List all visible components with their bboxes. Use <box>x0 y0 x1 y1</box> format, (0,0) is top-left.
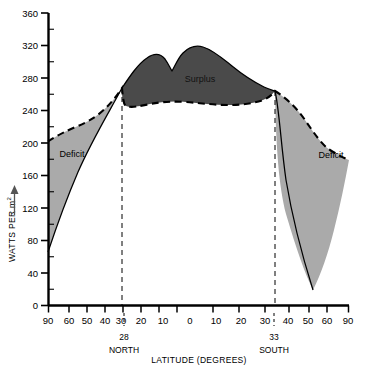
deficit-label-north: Deficit <box>59 149 85 159</box>
marker-value-north: 28 <box>119 332 129 342</box>
x-axis-title: LATITUDE (DEGREES) <box>151 355 246 365</box>
x-tick-20-north: 20 <box>136 315 147 326</box>
y-axis-title: WATTS PER m2 <box>6 197 17 262</box>
x-tick-50-south: 50 <box>303 315 314 326</box>
x-tick-60-north: 60 <box>64 315 75 326</box>
x-tick-40-north: 40 <box>100 315 111 326</box>
y-tick-160: 160 <box>22 170 38 181</box>
marker-value-south: 33 <box>269 332 279 342</box>
x-tick-60-south: 60 <box>322 315 333 326</box>
y-tick-0: 0 <box>33 300 38 311</box>
y-tick-280: 280 <box>22 73 38 84</box>
x-tick-90-north: 90 <box>43 315 54 326</box>
y-tick-120: 120 <box>22 203 38 214</box>
surplus-label: Surplus <box>185 74 216 84</box>
chart-svg: Deficit Surplus Deficit 0 40 80 120 160 <box>0 0 368 370</box>
deficit-label-south: Deficit <box>318 150 344 160</box>
y-tick-80: 80 <box>27 235 38 246</box>
radiation-balance-chart: Deficit Surplus Deficit 0 40 80 120 160 <box>0 0 368 370</box>
x-tick-30-north: 30 <box>116 315 127 326</box>
y-tick-200: 200 <box>22 138 38 149</box>
x-tick-20-south: 20 <box>236 315 247 326</box>
marker-word-north: NORTH <box>109 345 139 355</box>
x-tick-0: 0 <box>187 315 192 326</box>
x-tick-30-south: 30 <box>260 315 271 326</box>
y-tick-320: 320 <box>22 40 38 51</box>
y-tick-360: 360 <box>22 8 38 19</box>
x-tick-10-south: 10 <box>211 315 222 326</box>
x-tick-50-north: 50 <box>82 315 93 326</box>
x-tick-90-south: 90 <box>343 315 354 326</box>
marker-word-south: SOUTH <box>259 345 289 355</box>
y-tick-240: 240 <box>22 105 38 116</box>
y-axis-title-group: WATTS PER m2 <box>6 197 17 262</box>
x-tick-10-north: 10 <box>158 315 169 326</box>
y-tick-40: 40 <box>27 268 38 279</box>
x-tick-40-south: 40 <box>283 315 294 326</box>
